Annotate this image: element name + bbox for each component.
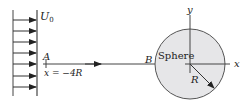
- y-axis-label: y: [186, 4, 193, 15]
- point-b-label: B: [144, 54, 152, 65]
- point-a-position-label: x = −4R: [44, 68, 83, 78]
- sphere-label: Sphere: [158, 50, 194, 61]
- x-axis-label: x: [234, 58, 240, 69]
- inflow-arrows: [13, 20, 36, 87]
- freestream-velocity-label: U0: [40, 10, 54, 24]
- diagram-svg: U0 A x = −4R B Sphere y x R: [0, 0, 251, 105]
- radius-label: R: [190, 74, 199, 85]
- point-a-label: A: [42, 51, 50, 62]
- flow-diagram: U0 A x = −4R B Sphere y x R: [0, 0, 251, 105]
